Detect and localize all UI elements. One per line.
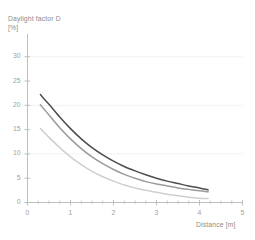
tick-mark-group — [25, 57, 243, 206]
daylight-factor-chart: Daylight factor D [%] Distance [m] 05101… — [0, 0, 255, 240]
data-series-group — [40, 95, 208, 199]
series-line-curve-dark — [40, 95, 208, 190]
axis-group — [28, 34, 243, 203]
series-line-curve-medium — [40, 105, 208, 192]
plot-area — [0, 0, 255, 240]
gridline-group — [28, 57, 243, 154]
